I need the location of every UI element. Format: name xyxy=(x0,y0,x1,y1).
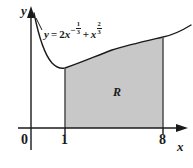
equation-term1-exponent-numerator: 1 xyxy=(76,21,81,28)
x-tick-label-8: 8 xyxy=(159,133,166,147)
x-axis-arrowhead xyxy=(176,124,188,132)
region-label-R: R xyxy=(113,86,121,98)
equation-lhs: y xyxy=(44,29,49,40)
equation-plus-sign: + xyxy=(83,29,89,40)
x-axis-label: x xyxy=(177,140,184,153)
figure-region-under-curve: y x 0 1 8 R y=2x−13+x23 xyxy=(0,0,193,168)
shaded-region-R xyxy=(65,37,163,128)
equation-term1-exponent: −13 xyxy=(70,21,81,36)
x-tick-label-1: 1 xyxy=(61,133,68,147)
y-axis-label: y xyxy=(21,4,27,17)
equation-term2-exponent: 23 xyxy=(96,21,102,36)
equation-term1-exponent-fraction: 13 xyxy=(76,21,81,36)
equation-label: y=2x−13+x23 xyxy=(44,21,102,40)
origin-label: 0 xyxy=(21,133,28,147)
equation-term1-exponent-denominator: 3 xyxy=(76,28,81,36)
equation-term1-exponent-sign: − xyxy=(70,25,75,35)
equation-term2-exponent-fraction: 23 xyxy=(97,21,102,36)
y-axis-arrowhead xyxy=(27,6,35,18)
equation-term2-exponent-numerator: 2 xyxy=(97,21,102,28)
equation-term2-exponent-denominator: 3 xyxy=(97,28,102,36)
equation-equals: = xyxy=(51,29,57,40)
